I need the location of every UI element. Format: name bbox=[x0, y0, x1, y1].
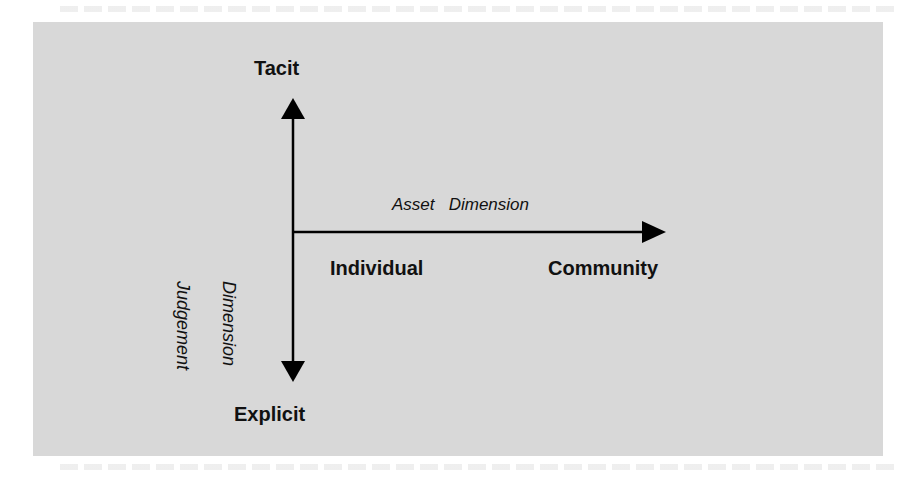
arrow-right-icon bbox=[642, 221, 666, 243]
vertical-axis-title-judgement: Judgement bbox=[174, 281, 192, 370]
label-community: Community bbox=[548, 258, 658, 278]
horizontal-axis bbox=[293, 221, 666, 243]
axes bbox=[0, 0, 914, 480]
label-tacit: Tacit bbox=[254, 58, 299, 78]
arrow-down-icon bbox=[281, 361, 305, 382]
horizontal-axis-title: Asset Dimension bbox=[392, 196, 529, 213]
vertical-axis-title-dimension: Dimension bbox=[220, 281, 238, 366]
arrow-up-icon bbox=[281, 98, 305, 119]
vertical-axis bbox=[281, 98, 305, 382]
label-explicit: Explicit bbox=[234, 404, 305, 424]
label-individual: Individual bbox=[330, 258, 423, 278]
